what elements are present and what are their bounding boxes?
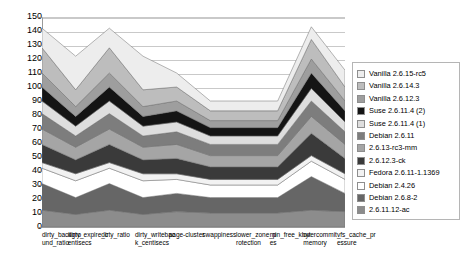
y-tick-label: 80 bbox=[6, 110, 42, 119]
legend-swatch-icon bbox=[357, 120, 365, 128]
x-tick-label: vfs_cache_pressure bbox=[337, 231, 379, 246]
y-tick-label: 120 bbox=[6, 54, 42, 63]
legend-item[interactable]: Debian 2.6.8-2 bbox=[357, 192, 456, 204]
legend-swatch-icon bbox=[357, 82, 365, 90]
legend-swatch-icon bbox=[357, 95, 365, 103]
legend-swatch-icon bbox=[357, 132, 365, 140]
legend-label: Debian 2.6.8-2 bbox=[369, 194, 417, 202]
legend-label: 2.6.12.3-ck bbox=[369, 157, 406, 165]
y-tick-label: 100 bbox=[6, 82, 42, 91]
legend-label: 2.6.11.12-ac bbox=[369, 206, 410, 214]
legend-label: Vanilla 2.6.12.3 bbox=[369, 95, 419, 103]
legend-label: Suse 2.6.11.4 (1) bbox=[369, 120, 425, 128]
legend-label: Fedora 2.6.11-1.1369 bbox=[369, 169, 440, 177]
x-axis-line bbox=[42, 227, 345, 228]
area-series-group bbox=[42, 17, 345, 227]
legend-item[interactable]: Vanilla 2.6.12.3 bbox=[357, 93, 456, 105]
legend-item[interactable]: Vanilla 2.6.15-rc5 bbox=[357, 68, 456, 80]
legend-label: Debian 2.4.26 bbox=[369, 182, 415, 190]
y-tick-label: 150 bbox=[6, 12, 42, 21]
legend-item[interactable]: Debian 2.4.26 bbox=[357, 180, 456, 192]
legend-swatch-icon bbox=[357, 169, 365, 177]
legend-label: 2.6.13-rc3-mm bbox=[369, 144, 417, 152]
stacked-area-chart: 0102030405060708090100110120130140150 di… bbox=[0, 0, 462, 275]
y-tick-label: 40 bbox=[6, 166, 42, 175]
y-tick-label: 0 bbox=[6, 222, 42, 231]
legend-item[interactable]: 2.6.13-rc3-mm bbox=[357, 142, 456, 154]
x-axis-labels: dirty_background_ratiodirty_expire_centi… bbox=[42, 231, 345, 275]
y-tick-label: 140 bbox=[6, 26, 42, 35]
legend-swatch-icon bbox=[357, 70, 365, 78]
y-tick-label: 30 bbox=[6, 180, 42, 189]
legend-swatch-icon bbox=[357, 182, 365, 190]
y-tick-label: 90 bbox=[6, 96, 42, 105]
legend-label: Suse 2.6.11.4 (2) bbox=[369, 107, 425, 115]
y-tick-label: 70 bbox=[6, 124, 42, 133]
legend-swatch-icon bbox=[357, 107, 365, 115]
legend-item[interactable]: Suse 2.6.11.4 (2) bbox=[357, 105, 456, 117]
legend-item[interactable]: 2.6.12.3-ck bbox=[357, 155, 456, 167]
legend-label: Vanilla 2.6.14.3 bbox=[369, 82, 419, 90]
y-tick-label: 60 bbox=[6, 138, 42, 147]
y-axis: 0102030405060708090100110120130140150 bbox=[0, 0, 42, 275]
legend-label: Vanilla 2.6.15-rc5 bbox=[369, 70, 426, 78]
legend-swatch-icon bbox=[357, 144, 365, 152]
legend-item[interactable]: Suse 2.6.11.4 (1) bbox=[357, 118, 456, 130]
y-tick-label: 50 bbox=[6, 152, 42, 161]
y-tick-label: 10 bbox=[6, 208, 42, 217]
legend-item[interactable]: Fedora 2.6.11-1.1369 bbox=[357, 167, 456, 179]
legend-swatch-icon bbox=[357, 206, 365, 214]
legend-swatch-icon bbox=[357, 157, 365, 165]
y-tick-label: 20 bbox=[6, 194, 42, 203]
chart-legend: Vanilla 2.6.15-rc5Vanilla 2.6.14.3Vanill… bbox=[352, 62, 460, 220]
legend-label: Debian 2.6.11 bbox=[369, 132, 414, 140]
y-tick-label: 130 bbox=[6, 40, 42, 49]
legend-item[interactable]: Debian 2.6.11 bbox=[357, 130, 456, 142]
legend-item[interactable]: 2.6.11.12-ac bbox=[357, 204, 456, 216]
legend-item[interactable]: Vanilla 2.6.14.3 bbox=[357, 80, 456, 92]
legend-swatch-icon bbox=[357, 194, 365, 202]
y-tick-label: 110 bbox=[6, 68, 42, 77]
